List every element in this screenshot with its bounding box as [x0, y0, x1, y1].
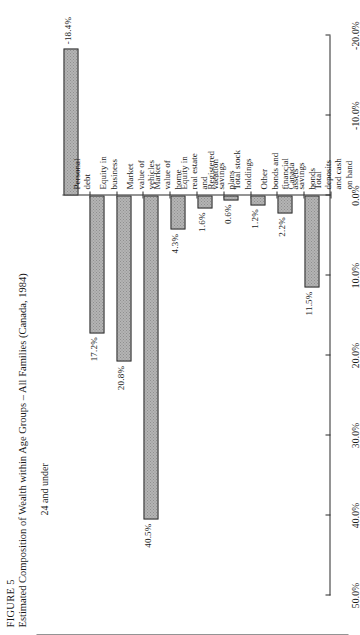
bar-value-label: 40.5%: [142, 523, 152, 547]
value-axis-tick-label: 10.0%: [350, 262, 360, 288]
value-axis-tick: [325, 114, 330, 115]
figure-caption: FIGURE 5 Estimated Composition of Wealth…: [4, 67, 29, 627]
bar-value-label: 17.2%: [88, 337, 98, 361]
category-label: Total deposits and cash on hand: [312, 119, 353, 189]
bar-value-label: 1.6%: [196, 212, 206, 232]
value-axis-tick-label: 40.0%: [350, 502, 360, 528]
bar-value-label: 11.5%: [303, 291, 313, 315]
bar-chart-plot: 50.0%40.0%30.0%20.0%10.0%0.0%-10.0%-20.0…: [62, 35, 330, 595]
category-label: Market value of vehicles: [124, 119, 155, 189]
value-axis-tick: [325, 514, 330, 515]
value-axis-tick: [325, 594, 330, 595]
bar-value-label: 1.2%: [249, 209, 259, 229]
figure-title: Estimated Composition of Wealth within A…: [16, 67, 28, 627]
bar-value-label: 0.6%: [222, 204, 232, 224]
value-axis-tick: [325, 34, 330, 35]
category-label: Personal debt: [71, 119, 92, 189]
bar: [116, 195, 131, 361]
bar: [143, 195, 158, 519]
bar: [277, 195, 292, 213]
bar-value-label: -18.4%: [62, 16, 72, 43]
category-label: Equity in real estate and vacation: [178, 119, 219, 189]
age-group-subtitle: 24 and under: [38, 463, 49, 515]
bar: [223, 195, 238, 200]
value-axis-tick: [325, 354, 330, 355]
bar: [304, 195, 319, 287]
value-axis-tick-label: -20.0%: [350, 21, 360, 50]
bar: [250, 195, 265, 205]
value-axis-tick-label: 50.0%: [350, 582, 360, 608]
value-axis-tick: [325, 434, 330, 435]
category-label: Equity in business: [97, 119, 118, 189]
category-axis-tick: [330, 191, 331, 198]
figure-number: FIGURE 5: [4, 67, 16, 627]
bar: [170, 195, 185, 229]
bar: [197, 195, 212, 208]
bar-value-label: 20.8%: [115, 365, 125, 389]
value-axis-tick: [325, 194, 330, 195]
category-label: Other bonds and financial assets: [258, 119, 299, 189]
value-axis-tick: [325, 274, 330, 275]
bar-value-label: 4.3%: [169, 233, 179, 253]
value-axis-tick-label: 20.0%: [350, 342, 360, 368]
value-axis-tick-label: 30.0%: [350, 422, 360, 448]
bar-value-label: 2.2%: [276, 217, 286, 237]
bar: [89, 195, 104, 333]
